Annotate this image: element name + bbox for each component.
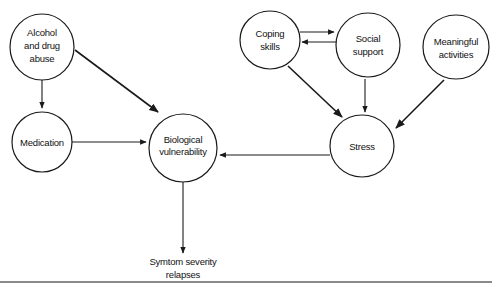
node-label: vulnerability	[159, 146, 207, 157]
node-label: Symtom severity	[149, 256, 217, 267]
node-label: Coping	[256, 28, 285, 39]
node-biological-vulnerability: Biological vulnerability	[149, 114, 217, 182]
node-label: and drug	[24, 40, 60, 51]
node-label: Social	[356, 33, 381, 44]
node-label: skills	[260, 41, 280, 52]
node-meaningful-activities: Meaningful activities	[423, 15, 489, 79]
horizontal-rule	[0, 281, 492, 283]
cut-off-caption	[0, 288, 500, 295]
node-label: activities	[439, 49, 474, 60]
node-alcohol-and-drug-abuse: Alcohol and drug abuse	[10, 14, 74, 80]
node-social-support: Social support	[336, 13, 400, 77]
node-medication: Medication	[12, 112, 72, 172]
edge-alcohol-to-biological	[75, 50, 158, 112]
edge-meaningful-to-stress	[396, 80, 444, 128]
node-label: abuse	[30, 53, 55, 64]
node-coping-skills: Coping skills	[240, 11, 300, 69]
node-label: Medication	[20, 137, 64, 148]
stress-vulnerability-diagram: Alcohol and drug abuse Medication Biolog…	[0, 0, 501, 295]
node-label: Meaningful	[434, 36, 479, 47]
node-label: relapses	[166, 269, 201, 280]
node-label: Stress	[349, 141, 375, 152]
node-label: support	[353, 46, 384, 57]
node-stress: Stress	[330, 115, 394, 177]
node-label: Biological	[164, 134, 203, 145]
node-symptom-severity-relapses: Symtom severity relapses	[149, 256, 217, 280]
edge-coping-to-stress	[288, 66, 342, 117]
node-label: Alcohol	[27, 27, 57, 38]
